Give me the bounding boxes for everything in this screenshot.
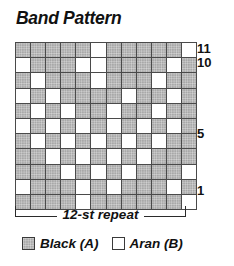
chart-cell-r7-c5: [76, 103, 91, 118]
chart-cell-r7-c3: [46, 103, 61, 118]
chart-cell-r6-c9: [136, 118, 151, 133]
chart-cell-r10-c7: [106, 58, 121, 73]
chart-cell-r2-c12: [182, 179, 197, 194]
chart-cell-r7-c4: [61, 103, 76, 118]
chart-cell-r4-c12: [182, 149, 197, 164]
chart-cell-r2-c5: [76, 179, 91, 194]
chart-cell-r6-c2: [31, 118, 46, 133]
chart-cell-r9-c1: [16, 73, 31, 88]
chart-cell-r7-c1: [16, 103, 31, 118]
chart-cell-r4-c2: [31, 149, 46, 164]
chart-cell-r7-c7: [106, 103, 121, 118]
chart-row-6: [16, 118, 197, 133]
chart-cell-r8-c2: [31, 88, 46, 103]
chart-row-11: [16, 43, 197, 58]
row-number-10: 10: [197, 56, 211, 70]
chart-cell-r7-c6: [91, 103, 106, 118]
chart-cell-r9-c6: [91, 73, 106, 88]
chart-cell-r4-c9: [136, 149, 151, 164]
legend-item-aran: Aran (B): [112, 236, 183, 251]
chart-cell-r2-c10: [151, 179, 166, 194]
chart-cell-r3-c7: [106, 164, 121, 179]
chart-row-2: [16, 179, 197, 194]
legend-swatch-black-icon: [22, 237, 35, 250]
chart-cell-r2-c4: [61, 179, 76, 194]
chart-grid-body: [16, 43, 197, 210]
chart-cell-r10-c8: [121, 58, 136, 73]
chart-cell-r5-c8: [121, 134, 136, 149]
chart-cell-r8-c1: [16, 88, 31, 103]
chart-cell-r8-c5: [76, 88, 91, 103]
row-number-11: 11: [197, 42, 211, 56]
chart-cell-r11-c4: [61, 43, 76, 58]
chart-cell-r11-c11: [166, 43, 181, 58]
chart-cell-r7-c12: [182, 103, 197, 118]
row-number-5: 5: [197, 127, 204, 141]
chart-cell-r6-c12: [182, 118, 197, 133]
chart-cell-r4-c7: [106, 149, 121, 164]
chart-cell-r8-c3: [46, 88, 61, 103]
chart-cell-r7-c11: [166, 103, 181, 118]
chart-cell-r10-c5: [76, 58, 91, 73]
chart-cell-r3-c11: [166, 164, 181, 179]
chart-cell-r4-c8: [121, 149, 136, 164]
chart-cell-r8-c10: [151, 88, 166, 103]
chart-cell-r9-c9: [136, 73, 151, 88]
legend-label-aran: Aran (B): [130, 236, 183, 251]
pattern-chart-grid: [15, 42, 197, 210]
chart-cell-r7-c9: [136, 103, 151, 118]
chart-cell-r8-c12: [182, 88, 197, 103]
chart-cell-r2-c3: [46, 179, 61, 194]
chart-cell-r4-c5: [76, 149, 91, 164]
chart-row-5: [16, 134, 197, 149]
chart-cell-r9-c12: [182, 73, 197, 88]
chart-cell-r5-c10: [151, 134, 166, 149]
chart-cell-r5-c4: [61, 134, 76, 149]
row-number-1: 1: [197, 184, 204, 198]
chart-cell-r5-c12: [182, 134, 197, 149]
chart-cell-r11-c9: [136, 43, 151, 58]
chart-cell-r6-c3: [46, 118, 61, 133]
chart-cell-r4-c4: [61, 149, 76, 164]
chart-cell-r9-c5: [76, 73, 91, 88]
chart-cell-r7-c10: [151, 103, 166, 118]
chart-cell-r7-c2: [31, 103, 46, 118]
chart-cell-r3-c8: [121, 164, 136, 179]
chart-cell-r2-c2: [31, 179, 46, 194]
chart-row-9: [16, 73, 197, 88]
chart-cell-r9-c11: [166, 73, 181, 88]
chart-row-7: [16, 103, 197, 118]
chart-cell-r11-c8: [121, 43, 136, 58]
chart-cell-r4-c10: [151, 149, 166, 164]
chart-cell-r7-c8: [121, 103, 136, 118]
chart-cell-r8-c8: [121, 88, 136, 103]
chart-cell-r10-c10: [151, 58, 166, 73]
chart-cell-r11-c3: [46, 43, 61, 58]
chart-cell-r6-c8: [121, 118, 136, 133]
chart-cell-r5-c1: [16, 134, 31, 149]
chart-cell-r2-c8: [121, 179, 136, 194]
chart-row-3: [16, 164, 197, 179]
chart-cell-r8-c7: [106, 88, 121, 103]
chart-cell-r6-c11: [166, 118, 181, 133]
chart-cell-r10-c3: [46, 58, 61, 73]
chart-cell-r9-c2: [31, 73, 46, 88]
chart-row-4: [16, 149, 197, 164]
chart-cell-r8-c9: [136, 88, 151, 103]
chart-cell-r3-c12: [182, 164, 197, 179]
legend-swatch-aran-icon: [112, 237, 125, 250]
chart-cell-r2-c1: [16, 179, 31, 194]
chart-cell-r6-c6: [91, 118, 106, 133]
chart-cell-r10-c4: [61, 58, 76, 73]
chart-legend: Black (A)Aran (B): [22, 236, 183, 251]
chart-cell-r4-c3: [46, 149, 61, 164]
chart-cell-r10-c1: [16, 58, 31, 73]
chart-cell-r8-c6: [91, 88, 106, 103]
legend-item-black: Black (A): [22, 236, 99, 251]
chart-cell-r9-c8: [121, 73, 136, 88]
chart-cell-r9-c4: [61, 73, 76, 88]
chart-cell-r11-c7: [106, 43, 121, 58]
row-number-axis: 111051: [197, 42, 231, 199]
chart-cell-r6-c5: [76, 118, 91, 133]
chart-cell-r11-c10: [151, 43, 166, 58]
